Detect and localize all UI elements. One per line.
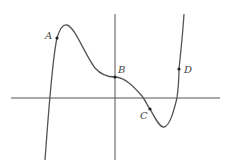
point-b — [113, 75, 116, 78]
label-b: B — [117, 64, 125, 75]
point-c — [148, 107, 151, 110]
point-a — [55, 36, 58, 39]
function-graph: A B C D — [0, 0, 225, 166]
label-a: A — [44, 30, 52, 41]
label-d: D — [183, 64, 192, 75]
point-d — [177, 67, 180, 70]
label-c: C — [140, 110, 148, 121]
